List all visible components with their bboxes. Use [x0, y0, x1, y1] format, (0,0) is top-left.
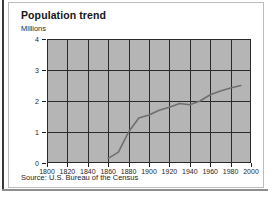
chart-plot — [47, 39, 251, 163]
figure-frame: Population trend Millions 01234 18001820… — [0, 0, 272, 199]
frame-left-rule — [2, 0, 4, 191]
y-tick-label: 0 — [23, 160, 39, 167]
y-tick-mark — [42, 132, 46, 133]
x-tick-mark — [108, 163, 109, 167]
x-tick-label: 2000 — [238, 168, 264, 176]
y-tick-mark — [42, 163, 46, 164]
y-tick-mark — [42, 70, 46, 71]
x-tick-mark — [231, 163, 232, 167]
chart-card: Population trend Millions 01234 18001820… — [8, 2, 264, 188]
x-tick-mark — [47, 163, 48, 167]
chart-title: Population trend — [21, 9, 106, 21]
y-axis-title: Millions — [21, 24, 46, 33]
y-tick-label: 1 — [23, 129, 39, 136]
x-tick-mark — [251, 163, 252, 167]
plot-area-wrapper: 01234 1800182018401860188019001920194019… — [21, 35, 255, 167]
x-tick-mark — [149, 163, 150, 167]
data-series — [108, 86, 241, 159]
x-tick-mark — [129, 163, 130, 167]
grid-lines — [47, 39, 251, 163]
y-tick-label: 2 — [23, 98, 39, 105]
y-tick-mark — [42, 101, 46, 102]
x-tick-mark — [67, 163, 68, 167]
x-tick-mark — [88, 163, 89, 167]
x-tick-mark — [210, 163, 211, 167]
frame-bottom-rule — [2, 189, 268, 191]
series-line-population — [108, 86, 241, 159]
y-tick-label: 4 — [23, 36, 39, 43]
x-tick-mark — [190, 163, 191, 167]
source-note: Source: U.S. Bureau of the Census — [21, 173, 138, 182]
x-tick-mark — [169, 163, 170, 167]
y-tick-label: 3 — [23, 67, 39, 74]
y-tick-mark — [42, 39, 46, 40]
